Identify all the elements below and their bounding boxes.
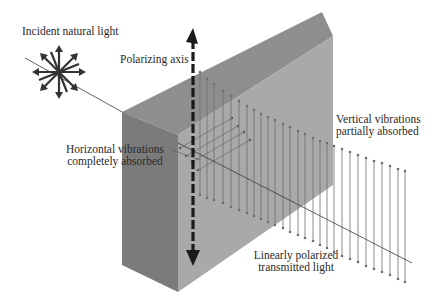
label-transmitted-line2: transmitted light <box>236 261 356 273</box>
label-vertical-line1: Vertical vibrations <box>336 113 421 125</box>
axis-arrow-head-up <box>186 28 198 44</box>
label-vertical-line2: partially absorbed <box>336 125 421 137</box>
label-horizontal-vibrations: Horizontal vibrations completely absorbe… <box>40 143 190 167</box>
label-transmitted-line1: Linearly polarized <box>236 249 356 261</box>
label-transmitted-light: Linearly polarized transmitted light <box>236 249 356 273</box>
label-polarizing-axis: Polarizing axis <box>120 53 189 65</box>
label-horizontal-line1: Horizontal vibrations <box>40 143 190 155</box>
label-horizontal-line2: completely absorbed <box>40 155 190 167</box>
label-incident-light: Incident natural light <box>22 25 118 37</box>
polarizer-left-face <box>122 112 178 292</box>
polarization-diagram: Incident natural light Polarizing axis H… <box>0 0 436 299</box>
label-vertical-vibrations: Vertical vibrations partially absorbed <box>336 113 421 137</box>
incident-star-icon <box>32 45 86 99</box>
